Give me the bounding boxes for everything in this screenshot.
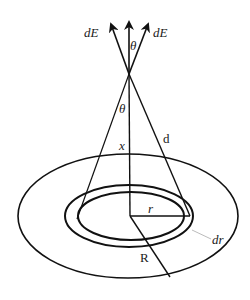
label-dr: dr <box>212 232 225 247</box>
disk-outer-edge <box>18 154 238 278</box>
label-theta-cone: θ <box>119 101 126 116</box>
dE-left-arrow <box>112 27 129 74</box>
axis-x-line <box>129 74 130 216</box>
label-dE-right: dE <box>153 25 168 40</box>
label-R: R <box>140 250 149 265</box>
label-dE-left: dE <box>84 25 99 40</box>
label-d: d <box>163 131 170 146</box>
charged-disk-field-diagram: dE dE θ θ x d r dr R <box>0 0 250 300</box>
label-x: x <box>118 138 125 153</box>
label-theta-top: θ <box>130 38 137 53</box>
label-r: r <box>148 201 154 216</box>
dr-leader-line <box>192 230 211 239</box>
